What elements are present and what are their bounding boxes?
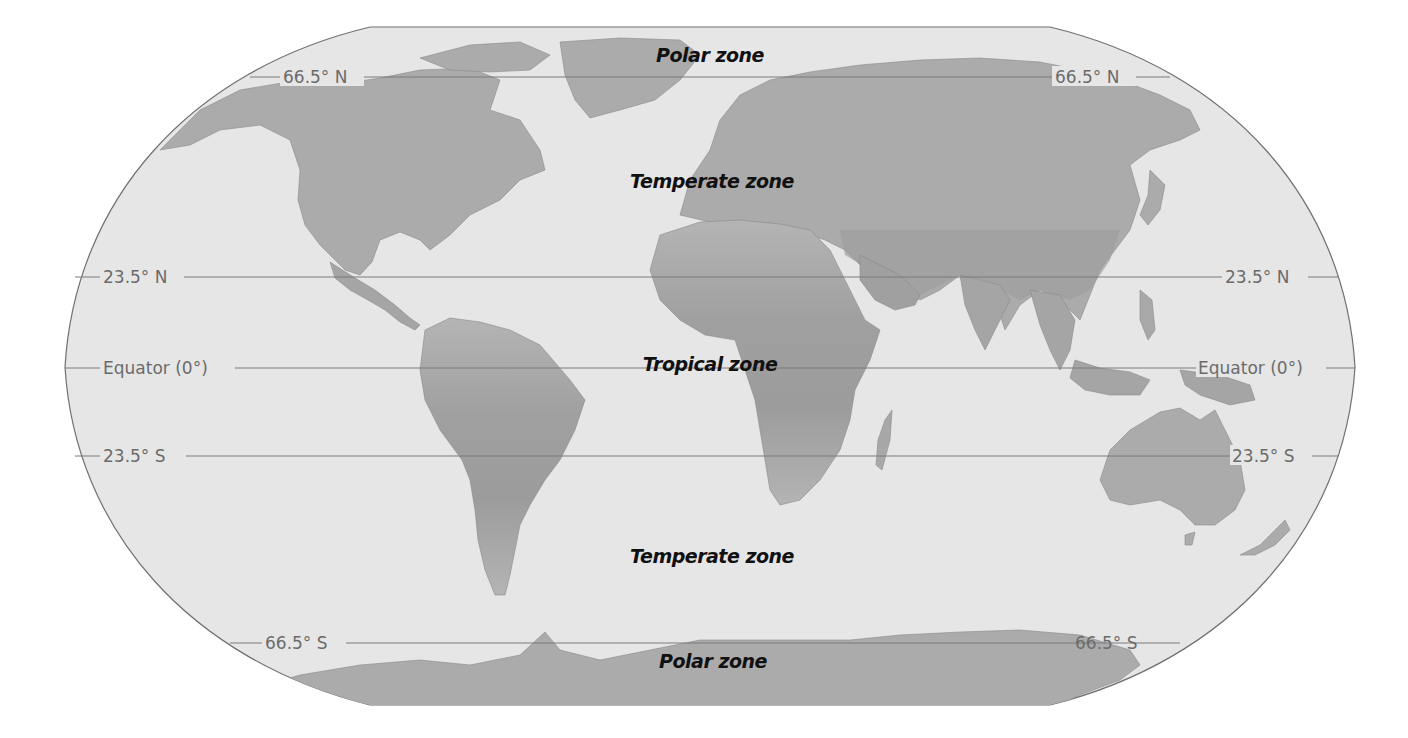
zone-label-south-polar: Polar zone [659, 650, 767, 672]
zone-label-north-temperate: Temperate zone [630, 170, 795, 192]
world-climate-zones-map: 66.5° N 66.5° N 23.5° N 23.5° N Equator … [0, 0, 1408, 738]
zone-label-south-temperate: Temperate zone [630, 545, 795, 567]
label-23-5-n-right: 23.5° N [1225, 267, 1289, 287]
label-66-5-s-right: 66.5° S [1075, 633, 1138, 653]
label-23-5-s-right: 23.5° S [1232, 446, 1295, 466]
label-66-5-n-left: 66.5° N [283, 67, 347, 87]
label-66-5-s-left: 66.5° S [265, 633, 328, 653]
zone-label-north-polar: Polar zone [656, 44, 764, 66]
label-23-5-n-left: 23.5° N [103, 267, 167, 287]
zone-label-tropical: Tropical zone [643, 353, 778, 375]
label-23-5-s-left: 23.5° S [103, 446, 166, 466]
label-66-5-n-right: 66.5° N [1055, 67, 1119, 87]
label-equator-left: Equator (0°) [103, 358, 208, 378]
label-equator-right: Equator (0°) [1198, 358, 1303, 378]
